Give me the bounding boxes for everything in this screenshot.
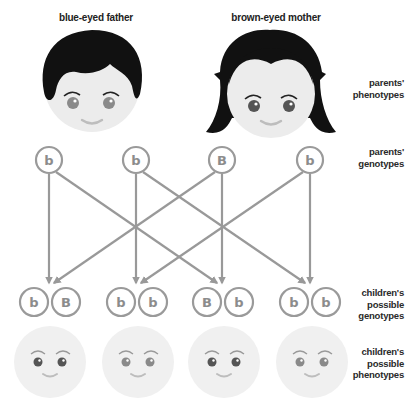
child-face-2-blue-eyed <box>102 326 174 398</box>
child-genotype-4: b b <box>280 288 340 316</box>
child-face-3-brown-eyed <box>188 326 260 398</box>
child-genotype-3: B b <box>193 288 253 316</box>
father-eye-left <box>67 97 79 109</box>
svg-text:b: b <box>234 295 243 310</box>
svg-text:b: b <box>44 153 53 168</box>
father-eye-right <box>103 97 115 109</box>
inheritance-arrows <box>49 172 310 283</box>
svg-text:B: B <box>202 295 212 310</box>
child-face-1-brown-eyed <box>14 326 86 398</box>
svg-text:b: b <box>148 295 157 310</box>
inheritance-diagram: b b B b b B b b B b b b <box>0 0 410 401</box>
parent-allele-3: B <box>209 147 235 173</box>
svg-text:b: b <box>289 295 298 310</box>
child-face-4-blue-eyed <box>276 326 348 398</box>
svg-text:B: B <box>217 153 227 168</box>
svg-text:b: b <box>116 295 125 310</box>
parent-allele-1: b <box>36 147 62 173</box>
svg-text:B: B <box>61 295 71 310</box>
svg-text:b: b <box>29 295 38 310</box>
mother-eye-left <box>248 100 260 112</box>
child-genotype-1: b B <box>20 288 80 316</box>
svg-text:b: b <box>131 153 140 168</box>
child-genotype-2: b b <box>107 288 167 316</box>
svg-text:b: b <box>321 295 330 310</box>
parent-allele-4: b <box>297 147 323 173</box>
father-face <box>43 30 142 132</box>
mother-eye-right <box>283 100 295 112</box>
mother-face <box>206 30 336 138</box>
parent-allele-2: b <box>123 147 149 173</box>
svg-text:b: b <box>305 153 314 168</box>
